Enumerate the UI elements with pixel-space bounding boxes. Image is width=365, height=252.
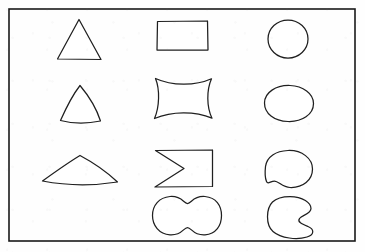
shape-fan-sector[interactable] (43, 156, 118, 185)
shape-bean[interactable] (265, 150, 312, 187)
shape-bowtie[interactable] (155, 150, 213, 187)
shape-triangle[interactable] (58, 20, 102, 60)
shape-group-column-3 (265, 20, 314, 238)
shape-group-column-1 (43, 20, 118, 185)
shape-oval[interactable] (265, 85, 314, 121)
shape-bitten-disk[interactable] (268, 197, 313, 239)
shape-curved-triangle[interactable] (61, 86, 101, 123)
figure-plate (0, 0, 365, 252)
shape-cushion[interactable] (155, 79, 213, 119)
shape-rectangle[interactable] (157, 21, 208, 50)
shape-circle[interactable] (268, 20, 308, 58)
shapes-canvas (0, 0, 365, 252)
shape-peanut[interactable] (153, 196, 222, 234)
shape-group-column-2 (153, 21, 222, 235)
